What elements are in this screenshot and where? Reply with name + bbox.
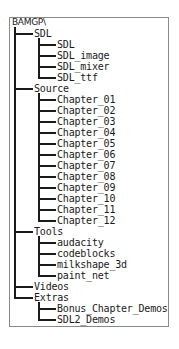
subfolder-label: Chapter_09	[57, 182, 115, 193]
tree-connector	[38, 132, 56, 134]
tree-branch-line	[38, 302, 40, 321]
tree-connector	[38, 319, 56, 321]
subfolder-label: SDL_image	[57, 50, 109, 61]
tree-connector	[38, 176, 56, 178]
subfolder-label: Chapter_05	[57, 138, 115, 149]
tree-connector	[14, 297, 33, 299]
folder-label-sdl: SDL	[34, 28, 51, 39]
subfolder-label: SDL_mixer	[57, 61, 109, 72]
subfolder-label: milkshape_3d	[57, 259, 127, 270]
subfolder-label: Chapter_02	[57, 105, 115, 116]
tree-connector	[38, 242, 56, 244]
tree-connector	[38, 66, 56, 68]
tree-connector	[38, 165, 56, 167]
subfolder-label: paint_net	[57, 270, 109, 281]
tree-branch-line	[38, 236, 40, 277]
tree-connector	[38, 253, 56, 255]
tree-connector	[38, 154, 56, 156]
tree-connector	[38, 55, 56, 57]
folder-label-videos: Videos	[34, 281, 69, 292]
tree-connector	[14, 33, 33, 35]
tree-connector	[14, 88, 33, 90]
subfolder-label: audacity	[57, 237, 104, 248]
subfolder-label: Chapter_04	[57, 127, 115, 138]
subfolder-label: codeblocks	[57, 248, 115, 259]
tree-branch-line	[38, 38, 40, 79]
tree-connector	[38, 143, 56, 145]
tree-connector	[38, 209, 56, 211]
subfolder-label: Chapter_11	[57, 204, 115, 215]
tree-connector	[38, 308, 56, 310]
subfolder-label: Bonus_Chapter_Demos	[57, 303, 168, 314]
subfolder-label: Chapter_12	[57, 215, 115, 226]
subfolder-label: Chapter_10	[57, 193, 115, 204]
tree-branch-line	[38, 93, 40, 222]
subfolder-label: Chapter_07	[57, 160, 115, 171]
subfolder-label: Chapter_06	[57, 149, 115, 160]
tree-connector	[38, 99, 56, 101]
subfolder-label: SDL	[57, 39, 74, 50]
subfolder-label: SDL2_Demos	[57, 314, 115, 325]
tree-connector	[14, 286, 33, 288]
tree-connector	[38, 275, 56, 277]
subfolder-label: SDL_ttf	[57, 72, 98, 83]
tree-connector	[38, 220, 56, 222]
tree-connector	[38, 187, 56, 189]
root-folder-label: BAMGP\	[12, 17, 46, 28]
tree-connector	[38, 264, 56, 266]
tree-connector	[38, 44, 56, 46]
tree-trunk-line	[14, 27, 16, 299]
tree-connector	[38, 198, 56, 200]
tree-connector	[14, 231, 33, 233]
tree-connector	[38, 77, 56, 79]
tree-connector	[38, 110, 56, 112]
subfolder-label: Chapter_08	[57, 171, 115, 182]
subfolder-label: Chapter_03	[57, 116, 115, 127]
tree-connector	[38, 121, 56, 123]
subfolder-label: Chapter_01	[57, 94, 115, 105]
